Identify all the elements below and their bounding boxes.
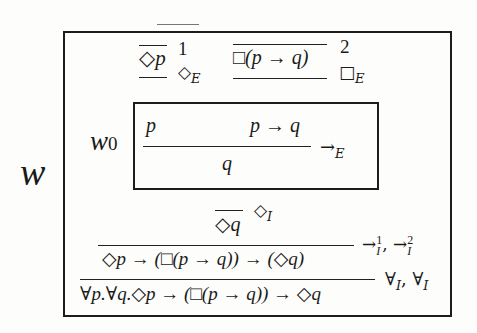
inner-premise-left: p — [146, 114, 156, 137]
box-elim-symbol: □ — [339, 62, 355, 82]
impl-elim-rule-label: →E — [320, 136, 345, 157]
outer-world-label: w — [20, 150, 45, 194]
box-elim-subscript: E — [355, 71, 365, 86]
inner-premise-right: p → q — [250, 114, 300, 137]
diamond-intro-symbol: ◇ — [254, 200, 267, 220]
impl-intro-symbol-1: → — [362, 234, 376, 254]
impl-elim-subscript: E — [335, 146, 345, 161]
diamond-elim-subscript: E — [191, 71, 201, 86]
forall-intro-sub-2: I — [423, 278, 428, 293]
impl-intro-rule-label: →1I, →2I — [362, 234, 413, 257]
diamond-intro-rule-label: ◇I — [254, 200, 272, 220]
forall-intro-separator: , — [401, 268, 407, 289]
forall-intro-symbol-2: ∀ — [412, 268, 423, 289]
inner-conclusion: q — [222, 152, 232, 175]
premise-1-rule-label: ◇E — [178, 62, 201, 82]
impl-elim-symbol: → — [320, 136, 335, 157]
inner-world-label: w0 — [90, 126, 118, 157]
forall-intro-formula: ∀p.∀q.◇p → (□(p → q)) → ◇q — [80, 282, 321, 305]
diamond-intro-formula: ◇q — [215, 212, 240, 236]
diamond-intro-subscript: I — [267, 209, 272, 224]
premise-1-formula: ◇p — [139, 46, 166, 71]
impl-intro-formula: ◇p → (□(p → q)) → (◇q) — [102, 247, 304, 270]
forall-intro-sub-1: I — [396, 278, 401, 293]
forall-intro-symbol-1: ∀ — [385, 268, 396, 289]
faint-top-rule — [157, 24, 199, 25]
premise-2-bottom-rule — [233, 78, 327, 79]
premise-2-formula: □(p → q) — [233, 46, 308, 69]
impl-intro-separator: , — [382, 234, 387, 254]
forall-intro-rule — [80, 279, 375, 280]
inner-world-letter: w — [90, 126, 108, 156]
inner-inference-rule — [143, 146, 311, 147]
diamond-elim-symbol: ◇ — [178, 62, 191, 82]
forall-intro-rule-label: ∀I, ∀I — [385, 268, 429, 289]
inner-world-subscript: 0 — [108, 133, 118, 154]
premise-2-rule-label: □E — [339, 62, 365, 82]
impl-intro-sub-2: I — [407, 246, 413, 257]
impl-intro-symbol-2: → — [393, 234, 407, 254]
premise-2-hyp-index: 2 — [340, 36, 350, 58]
premise-1-hyp-index: 1 — [178, 38, 188, 60]
premise-1-bottom-rule — [139, 77, 167, 78]
